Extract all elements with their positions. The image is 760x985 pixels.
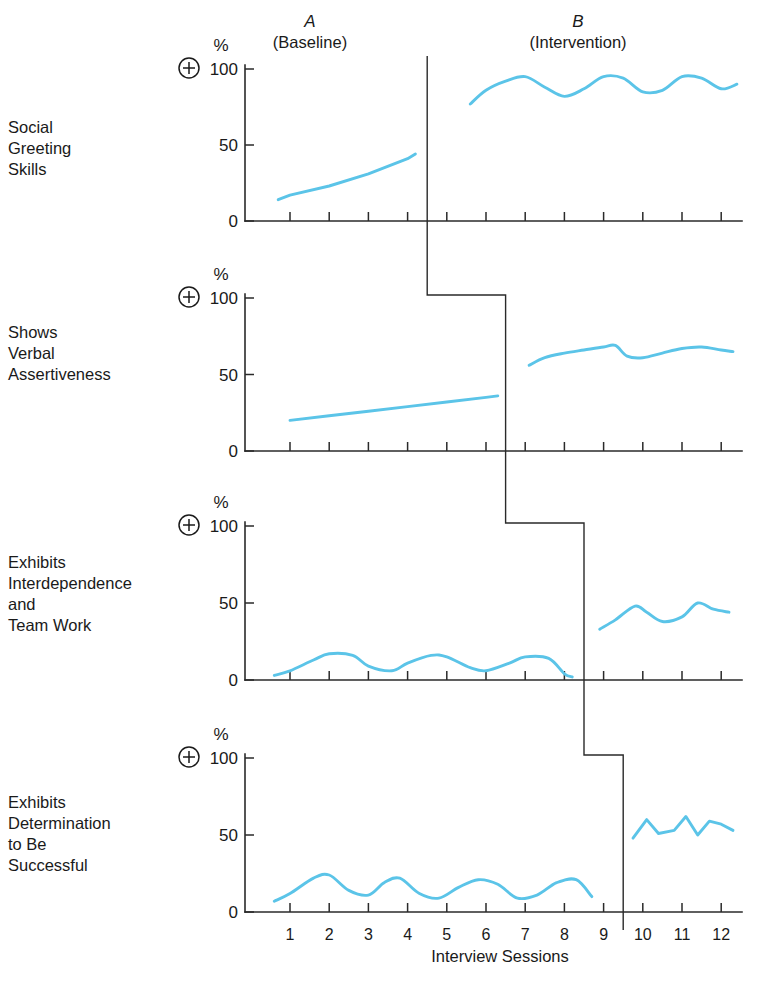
baseline-data-line xyxy=(274,874,592,901)
panel-2: 100500%ShowsVerbalAssertiveness xyxy=(8,265,742,461)
percent-symbol: % xyxy=(213,36,228,55)
phase-a-letter: A xyxy=(303,12,315,31)
y-tick-label: 0 xyxy=(229,442,238,461)
panel-label-line: Exhibits xyxy=(8,553,66,571)
x-tick-label: 11 xyxy=(674,926,691,943)
panel-label-line: Social xyxy=(8,118,53,136)
y-tick-label: 0 xyxy=(229,903,238,922)
intervention-data-line xyxy=(600,603,729,629)
percent-symbol: % xyxy=(213,725,228,744)
x-tick-label: 4 xyxy=(403,926,412,943)
panel-label-line: Team Work xyxy=(8,616,92,634)
baseline-data-line xyxy=(290,396,498,421)
phase-a-name: (Baseline) xyxy=(273,33,347,51)
x-tick-label: 5 xyxy=(442,926,451,943)
phase-change-staircase xyxy=(427,56,623,930)
x-tick-label: 8 xyxy=(560,926,569,943)
y-tick-label: 100 xyxy=(210,289,238,308)
intervention-data-line xyxy=(529,345,733,365)
panel-label-line: and xyxy=(8,595,36,613)
y-tick-label: 50 xyxy=(219,136,238,155)
panel-label-line: Skills xyxy=(8,160,47,178)
baseline-data-line xyxy=(274,653,572,676)
x-tick-label: 12 xyxy=(712,926,730,943)
x-tick-label: 1 xyxy=(286,926,295,943)
y-tick-label: 100 xyxy=(210,749,238,768)
x-tick-label: 7 xyxy=(521,926,530,943)
multiple-baseline-figure: A(Baseline)B(Intervention)100500%SocialG… xyxy=(0,0,760,985)
x-tick-label: 9 xyxy=(599,926,608,943)
x-tick-label: 3 xyxy=(364,926,373,943)
baseline-data-line xyxy=(278,154,415,200)
panel-label-line: Verbal xyxy=(8,344,55,362)
panel-label-line: Exhibits xyxy=(8,793,66,811)
y-tick-label: 100 xyxy=(210,517,238,536)
panel-label-line: Successful xyxy=(8,856,88,874)
y-tick-label: 50 xyxy=(219,366,238,385)
panel-label-line: Assertiveness xyxy=(8,365,111,383)
panel-label-line: to Be xyxy=(8,835,47,853)
phase-b-name: (Intervention) xyxy=(529,33,626,51)
intervention-data-line xyxy=(470,76,737,104)
percent-symbol: % xyxy=(213,265,228,284)
panel-label-line: Greeting xyxy=(8,139,71,157)
panel-label-line: Shows xyxy=(8,323,58,341)
percent-symbol: % xyxy=(213,493,228,512)
phase-b-letter: B xyxy=(572,12,583,31)
x-axis-title: Interview Sessions xyxy=(431,947,569,965)
chart-canvas: A(Baseline)B(Intervention)100500%SocialG… xyxy=(0,0,760,985)
y-tick-label: 100 xyxy=(210,60,238,79)
x-tick-label: 6 xyxy=(482,926,491,943)
panel-1: 100500%SocialGreetingSkills xyxy=(8,36,742,231)
y-tick-label: 0 xyxy=(229,671,238,690)
x-tick-label: 2 xyxy=(325,926,334,943)
panel-label-line: Determination xyxy=(8,814,111,832)
y-tick-label: 0 xyxy=(229,212,238,231)
intervention-data-line xyxy=(633,817,733,839)
panel-4: 100500%123456789101112ExhibitsDeterminat… xyxy=(8,725,742,943)
panel-3: 100500%ExhibitsInterdependenceandTeam Wo… xyxy=(8,493,742,690)
phase-headers: A(Baseline)B(Intervention) xyxy=(273,12,627,51)
x-tick-label: 10 xyxy=(634,926,652,943)
y-tick-label: 50 xyxy=(219,826,238,845)
y-tick-label: 50 xyxy=(219,594,238,613)
panel-label-line: Interdependence xyxy=(8,574,132,592)
